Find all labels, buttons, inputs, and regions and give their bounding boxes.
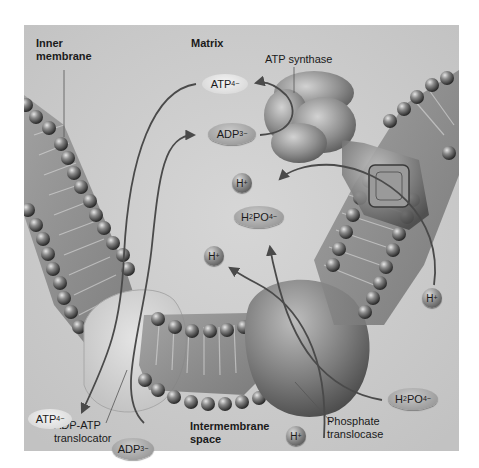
phosphate-translocase-line1: Phosphate bbox=[327, 415, 383, 428]
mitochondrial-transport-diagram: Inner membrane Matrix ATP synthase ADP-A… bbox=[24, 25, 459, 451]
atp-ims-pill: ATP4− bbox=[28, 409, 72, 429]
atp-synthase-label: ATP synthase bbox=[265, 53, 332, 66]
proton-ims-1: H+ bbox=[422, 288, 442, 308]
phosphate-matrix-po: PO bbox=[253, 211, 269, 223]
phosphate-ims-po: PO bbox=[407, 393, 423, 405]
phosphate-ims-h: H bbox=[395, 393, 403, 405]
inner-membrane-label: Inner membrane bbox=[36, 37, 92, 63]
phosphate-translocase-line2: translocase bbox=[327, 428, 383, 441]
phosphate-translocase-label: Phosphate translocase bbox=[327, 415, 383, 441]
inner-membrane-label-line2: membrane bbox=[36, 50, 92, 63]
matrix-label: Matrix bbox=[191, 37, 223, 50]
proton-base: H bbox=[426, 293, 433, 304]
proton-base: H bbox=[208, 251, 215, 262]
phosphate-matrix-pill: H2PO4− bbox=[234, 206, 284, 228]
proton-base: H bbox=[236, 178, 243, 189]
adp-ims-base: ADP bbox=[118, 443, 141, 455]
phosphate-matrix-h: H bbox=[241, 211, 249, 223]
atp-matrix-pill: ATP4− bbox=[202, 74, 248, 94]
atp-ims-base: ATP bbox=[36, 413, 57, 425]
adp-atp-translocator-line2: translocator bbox=[54, 432, 111, 445]
inner-membrane-label-line1: Inner bbox=[36, 37, 92, 50]
atp-matrix-base: ATP bbox=[211, 78, 232, 90]
phosphate-ims-pill: H2PO4− bbox=[388, 388, 438, 410]
adp-matrix-base: ADP bbox=[217, 128, 240, 140]
adp-ims-pill: ADP3− bbox=[112, 438, 154, 460]
proton-matrix-1: H+ bbox=[232, 173, 252, 193]
intermembrane-space-label: Intermembrane space bbox=[190, 420, 269, 446]
proton-ims-2: H+ bbox=[286, 426, 306, 446]
proton-base: H bbox=[290, 431, 297, 442]
intermembrane-space-line2: space bbox=[190, 433, 269, 446]
adp-matrix-pill: ADP3− bbox=[208, 123, 256, 145]
proton-matrix-2: H+ bbox=[204, 246, 224, 266]
intermembrane-space-line1: Intermembrane bbox=[190, 420, 269, 433]
